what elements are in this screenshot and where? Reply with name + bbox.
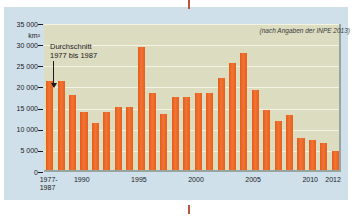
- bar: [126, 107, 133, 170]
- chart-figure: km² 35 000 30 000 25 000 20 000 15 000 1…: [0, 0, 356, 219]
- bar: [206, 93, 213, 170]
- x-axis-tick-label: 2005: [245, 176, 261, 184]
- bar: [263, 110, 270, 170]
- x-axis-tick-label: 1995: [131, 176, 147, 184]
- x-axis-tick-label-line-1: 1977-: [40, 176, 58, 183]
- annotation-line-1: Durchschnitt: [50, 42, 92, 51]
- bar: [275, 121, 282, 170]
- gridline: [44, 66, 339, 67]
- bar: [332, 151, 339, 170]
- bar: [286, 115, 293, 170]
- x-axis-tick-label-line-2: 1987: [40, 184, 58, 192]
- bar: [103, 112, 110, 170]
- y-axis-tick-mark: [38, 66, 43, 67]
- gridline: [44, 24, 339, 25]
- bar: [309, 140, 316, 170]
- bar: [92, 123, 99, 170]
- bar: [218, 78, 225, 170]
- crop-mark-bottom: [188, 205, 190, 214]
- bar: [69, 95, 76, 170]
- gridline: [44, 151, 339, 152]
- bar: [160, 114, 167, 170]
- y-axis-tick-mark: [38, 109, 43, 110]
- y-axis-tick-mark: [38, 130, 43, 131]
- x-axis-tick-label-line-1: 2000: [188, 176, 204, 183]
- x-axis-tick-label: 1977-1987: [40, 176, 58, 192]
- y-axis-tick-mark: [38, 172, 43, 173]
- source-note: (nach Angaben der INPE 2013): [260, 27, 350, 34]
- x-axis-tick-label-line-1: 1990: [74, 176, 90, 183]
- x-axis-tick-label-line-1: 2012: [325, 176, 341, 183]
- x-axis-tick-label: 1990: [74, 176, 90, 184]
- x-axis-tick-label-line-1: 2010: [302, 176, 318, 183]
- gridline: [44, 109, 339, 110]
- bar: [149, 93, 156, 170]
- bar: [138, 47, 145, 170]
- bar: [252, 90, 259, 170]
- bar: [58, 81, 65, 170]
- y-axis-unit-label: km²: [0, 32, 40, 39]
- x-axis-tick-label-line-1: 2005: [245, 176, 261, 183]
- bar: [46, 81, 53, 170]
- crop-mark-top: [188, 0, 190, 9]
- y-axis-tick-mark: [38, 87, 43, 88]
- gridline: [44, 87, 339, 88]
- bar: [80, 112, 87, 170]
- x-axis-tick-label: 2010: [302, 176, 318, 184]
- y-axis-tick-mark: [38, 151, 43, 152]
- bar: [172, 97, 179, 170]
- average-annotation: Durchschnitt 1977 bis 1987: [50, 42, 97, 60]
- annotation-arrow-icon: [51, 83, 57, 88]
- y-axis-tick-mark: [38, 24, 43, 25]
- bar: [183, 97, 190, 170]
- y-axis-tick-mark: [38, 45, 43, 46]
- x-axis-tick-label: 2000: [188, 176, 204, 184]
- bar: [229, 63, 236, 170]
- gridline: [44, 130, 339, 131]
- x-axis-tick-label: 2012: [325, 176, 341, 184]
- bar: [320, 143, 327, 170]
- bar: [115, 107, 122, 170]
- bar: [195, 93, 202, 170]
- x-axis-tick-label-line-1: 1995: [131, 176, 147, 183]
- bar: [297, 138, 304, 170]
- annotation-line-2: 1977 bis 1987: [50, 51, 97, 60]
- bar: [240, 53, 247, 170]
